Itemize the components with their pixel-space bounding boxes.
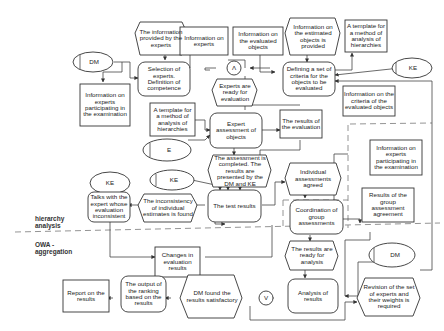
flowchart-diagram: The information provided by the experts …	[0, 0, 444, 331]
or-gate-icon: V	[260, 292, 272, 304]
node-info-participating-right: Information on experts participating in …	[371, 141, 421, 174]
node-selection-experts: Selection of experts. Definition of comp…	[140, 63, 188, 95]
node-revision: Revision of the set of experts and their…	[363, 279, 415, 315]
node-template-top: A template for a method of analysis of h…	[346, 21, 386, 51]
node-test-results: The test results	[210, 191, 259, 221]
node-defining-criteria: Defining a set of criteria for the objec…	[285, 63, 333, 95]
node-results-evaluation: The results of the evaluation	[281, 111, 321, 137]
node-info-provided-experts: The information provided by the experts	[138, 23, 184, 54]
node-dm-top: DM	[80, 56, 108, 68]
node-group-agreement: Results of the group assessment agreemen…	[363, 189, 413, 221]
node-report: Report on the results	[64, 281, 108, 311]
node-experts-ready: Experts are ready for evaluation	[216, 80, 254, 105]
node-info-experts: Information on experts	[181, 28, 227, 54]
section-label-hierarchy: hierarchy analysis	[35, 215, 80, 229]
node-template-mid: A template for a method of analysis of h…	[151, 104, 194, 135]
node-expert-assessment: Expert assessment of objects	[212, 114, 260, 147]
node-ke-top: KE	[398, 62, 428, 74]
node-info-estimated-objects: Information on the estimated objects is …	[289, 19, 337, 54]
node-ke-mid: KE	[158, 174, 190, 186]
node-info-criteria: Information on the criteria of the evalu…	[344, 87, 394, 115]
node-output-ranking: The output of the ranking based on the r…	[123, 277, 164, 311]
node-changes-evaluation: Changes in evaluation results	[156, 248, 199, 276]
node-dm-bottom: DM	[378, 249, 412, 261]
section-label-owa: OWA - aggregation	[35, 241, 80, 255]
node-talks-expert: Talks with the expert whose evaluation i…	[89, 193, 129, 221]
node-info-evaluated-objects: Information on the evaluated objects	[234, 28, 282, 54]
node-inconsistency: The inconsistency of individual estimate…	[142, 195, 194, 221]
node-ke-left: KE	[95, 177, 125, 189]
node-coordination: Coordination of group assessments	[292, 201, 341, 233]
node-info-participating-left: Information on experts participating in …	[81, 85, 129, 125]
node-analysis-results: Analysis of results	[290, 280, 336, 312]
and-gate-icon: Λ	[228, 62, 240, 74]
node-individual-agreed: Individual assessments agreed	[290, 164, 336, 194]
node-ready-analysis: The results are ready for analysis	[290, 242, 334, 269]
node-assessment-completed: The assessment is completed. The results…	[212, 156, 268, 186]
node-dm-satisfactory: DM found the results satisfactory	[186, 276, 238, 317]
node-e: E	[152, 144, 186, 156]
